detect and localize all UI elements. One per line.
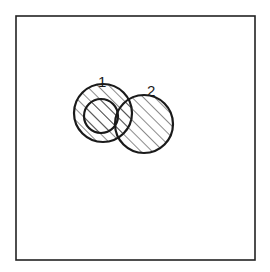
overlapping-circles-diagram: 1 2 xyxy=(0,0,270,272)
circle-2-label: 2 xyxy=(147,82,155,99)
circle-1-label: 1 xyxy=(98,73,106,90)
circle-2 xyxy=(115,95,173,153)
inner-circle xyxy=(84,99,118,133)
